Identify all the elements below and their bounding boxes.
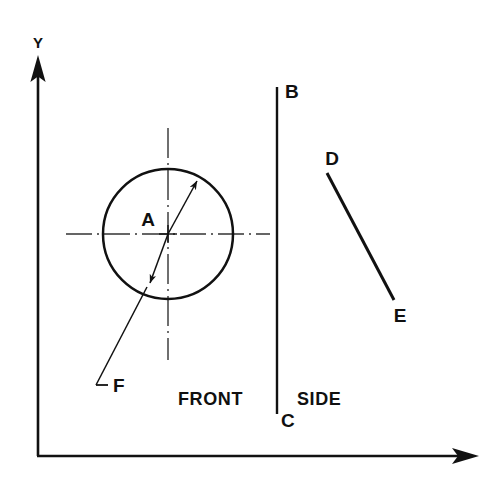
callout-label-f: F bbox=[113, 375, 125, 396]
dimension-leader-line bbox=[96, 287, 147, 385]
callout-label-a: A bbox=[141, 209, 155, 230]
y-axis-label: Y bbox=[33, 34, 43, 51]
view-divider-group: B C bbox=[277, 81, 299, 431]
view-label-group: FRONT SIDE bbox=[178, 389, 341, 409]
callout-label-e: E bbox=[394, 305, 407, 326]
front-view-group: A bbox=[66, 128, 270, 360]
diameter-arrow-lower bbox=[150, 234, 168, 283]
axis-group: Y bbox=[30, 34, 479, 464]
side-view-edge-line-de bbox=[327, 173, 394, 300]
orthographic-projection-drawing: Y A F B C bbox=[0, 0, 484, 483]
diagram-canvas: Y A F B C bbox=[0, 0, 484, 483]
callout-label-c: C bbox=[281, 410, 295, 431]
callout-label-b: B bbox=[285, 81, 299, 102]
callout-label-d: D bbox=[325, 148, 339, 169]
side-view-group: D E bbox=[325, 148, 406, 326]
side-view-label: SIDE bbox=[297, 389, 341, 409]
diameter-arrow-upper bbox=[168, 181, 197, 234]
front-view-label: FRONT bbox=[178, 389, 243, 409]
